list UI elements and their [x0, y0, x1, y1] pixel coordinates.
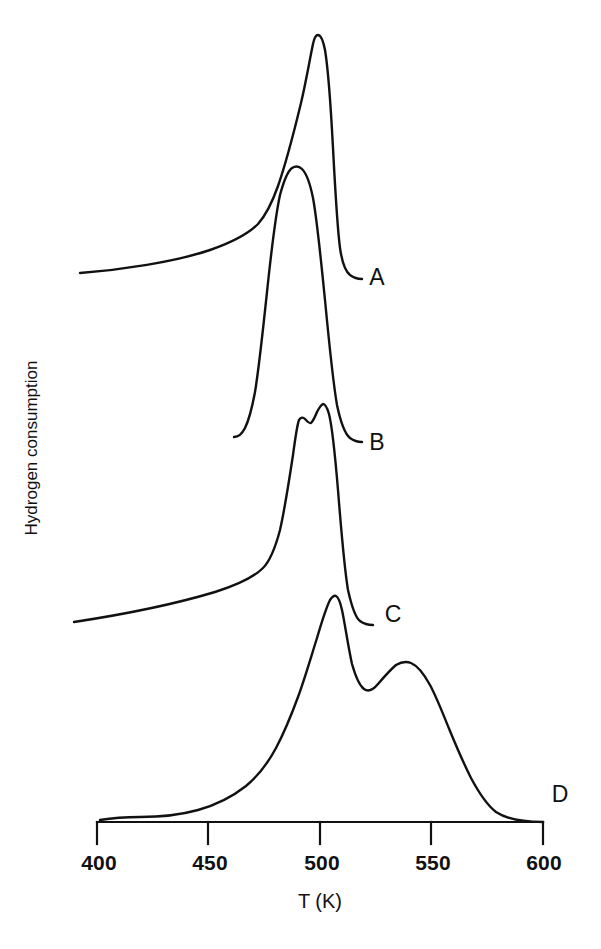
curve-d — [100, 596, 543, 822]
x-axis-title: T (K) — [298, 890, 342, 912]
curve-label-c: C — [385, 601, 402, 627]
x-axis-tick-labels: 400 450 500 550 600 — [81, 851, 562, 874]
x-tick-label-400: 400 — [81, 851, 117, 874]
x-axis-ticks — [97, 822, 543, 844]
curve-c — [74, 404, 373, 625]
x-tick-label-600: 600 — [526, 851, 562, 874]
x-tick-label-550: 550 — [415, 851, 451, 874]
y-axis-title: Hydrogen consumption — [22, 361, 41, 536]
tpr-figure: Hydrogen consumption A B C D 400 450 500 — [0, 0, 601, 949]
x-tick-label-450: 450 — [192, 851, 228, 874]
curve-label-d: D — [552, 781, 569, 807]
curve-b — [234, 167, 362, 442]
plot-canvas: Hydrogen consumption A B C D 400 450 500 — [0, 0, 601, 949]
x-tick-label-500: 500 — [304, 851, 340, 874]
curve-label-b: B — [369, 429, 384, 455]
curve-label-a: A — [369, 264, 385, 290]
